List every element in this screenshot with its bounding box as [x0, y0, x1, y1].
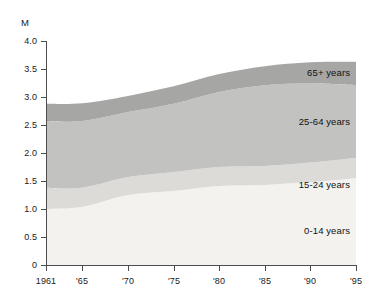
y-tick-mark [41, 209, 46, 210]
y-tick-mark [41, 181, 46, 182]
x-tick-label: '75 [154, 276, 194, 286]
x-tick-mark [46, 266, 47, 271]
x-tick-label: 1961 [26, 276, 66, 286]
x-tick-mark [356, 266, 357, 271]
y-tick-label: 1.0 [1, 204, 37, 214]
y-tick-mark [41, 69, 46, 70]
y-tick-label: 3.0 [1, 92, 37, 102]
x-tick-label: '90 [290, 276, 330, 286]
series-label-3: 15-24 years [230, 179, 350, 190]
x-tick-mark [310, 266, 311, 271]
y-tick-label: 3.5 [1, 64, 37, 74]
x-tick-mark [219, 266, 220, 271]
y-axis-unit-label: M [21, 17, 29, 28]
x-tick-mark [174, 266, 175, 271]
y-tick-label: 0.5 [1, 232, 37, 242]
x-tick-mark [265, 266, 266, 271]
stacked-area-chart: M 4.03.53.02.52.01.51.00.50 1961'65'70'7… [0, 0, 381, 307]
series-label-2: 25-64 years [230, 116, 350, 127]
series-label-4: 0-14 years [230, 225, 350, 236]
x-tick-label: '70 [108, 276, 148, 286]
x-tick-mark [128, 266, 129, 271]
y-tick-mark [41, 41, 46, 42]
y-axis-line [46, 41, 47, 266]
x-tick-mark [82, 266, 83, 271]
x-tick-label: '65 [62, 276, 102, 286]
y-tick-label: 2.5 [1, 120, 37, 130]
y-tick-label: 4.0 [1, 36, 37, 46]
y-tick-label: 2.0 [1, 148, 37, 158]
y-tick-mark [41, 97, 46, 98]
y-tick-mark [41, 153, 46, 154]
x-tick-label: '80 [199, 276, 239, 286]
series-label-1: 65+ years [230, 67, 350, 78]
y-tick-label: 0 [1, 260, 37, 270]
y-tick-mark [41, 237, 46, 238]
y-tick-mark [41, 125, 46, 126]
x-tick-label: '85 [245, 276, 285, 286]
y-tick-label: 1.5 [1, 176, 37, 186]
x-tick-label: '95 [336, 276, 376, 286]
